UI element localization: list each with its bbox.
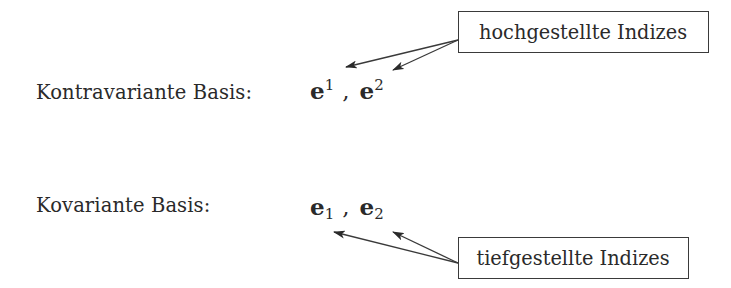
annotation-text-subscript: tiefgestellte Indizes	[477, 246, 670, 270]
annotation-box-subscript: tiefgestellte Indizes	[458, 237, 689, 279]
superscript-index: 1	[325, 76, 335, 94]
basis-symbol: e	[360, 77, 375, 104]
arrow-to-e-super-2	[393, 40, 458, 70]
subscript-index: 2	[374, 205, 384, 223]
annotation-text-superscript: hochgestellte Indizes	[479, 20, 687, 44]
separator: ,	[342, 78, 349, 104]
row-label-contravariant: Kontravariante Basis:	[36, 80, 252, 104]
row-label-covariant: Kovariante Basis:	[36, 193, 210, 217]
arrow-to-e-sub-2	[393, 232, 458, 263]
superscript-index: 2	[374, 76, 384, 94]
basis-symbol: e	[360, 193, 375, 220]
annotation-box-superscript: hochgestellte Indizes	[458, 11, 709, 53]
subscript-index: 1	[325, 205, 335, 223]
covariant-basis-vectors: e1,e2	[310, 193, 384, 223]
separator: ,	[342, 194, 349, 220]
arrow-to-e-sub-1	[334, 232, 458, 263]
basis-symbol: e	[310, 77, 325, 104]
contravariant-basis-vectors: e1,e2	[310, 76, 384, 104]
arrow-to-e-super-1	[346, 40, 458, 67]
basis-symbol: e	[310, 193, 325, 220]
